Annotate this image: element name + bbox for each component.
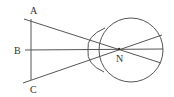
ray-b (25, 49, 163, 50)
nodal-point (118, 48, 121, 51)
label-n: N (116, 53, 123, 64)
label-a: A (30, 5, 38, 16)
ray-c (23, 35, 162, 83)
eye-ray-diagram: A B C N (0, 0, 174, 97)
label-c: C (30, 84, 37, 95)
label-b: B (14, 45, 21, 56)
ray-a (24, 19, 161, 63)
eyeball (99, 18, 163, 82)
